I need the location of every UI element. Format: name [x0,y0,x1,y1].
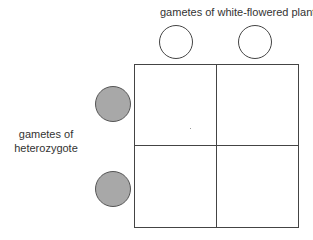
grid-vertical-divider [216,65,217,227]
grid-horizontal-divider [135,145,298,146]
stray-mark [190,128,191,129]
side-gametes-label: gametes of heterozygote [4,127,88,155]
grey-gamete-circle-1 [95,86,131,122]
top-gametes-label: gametes of white-flowered plant [160,6,313,18]
white-gamete-circle-2 [238,25,272,59]
white-gamete-circle-1 [159,25,193,59]
side-label-line-2: heterozygote [4,141,88,155]
grey-gamete-circle-2 [95,171,131,207]
side-label-line-1: gametes of [4,127,88,141]
punnett-square [134,64,299,228]
